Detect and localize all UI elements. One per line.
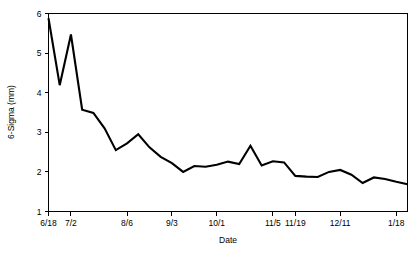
- y-tick-label: 5: [37, 48, 42, 58]
- data-series-line: [49, 18, 408, 184]
- y-axis-title: 6-Sigma (mm): [6, 85, 16, 139]
- y-axis-tick-labels: 123456: [37, 9, 42, 217]
- chart-canvas: 123456 6/187/28/69/310/111/511/1912/111/…: [0, 0, 417, 256]
- x-axis-title: Date: [219, 235, 237, 245]
- x-tick-label: 7/2: [65, 218, 77, 228]
- y-tick-label: 3: [37, 127, 42, 137]
- y-tick-label: 6: [37, 9, 42, 19]
- x-tick-label: 12/11: [330, 218, 351, 228]
- x-tick-label: 1/18: [388, 218, 405, 228]
- line-chart: 123456 6/187/28/69/310/111/511/1912/111/…: [0, 0, 417, 256]
- x-axis-ticks: [49, 212, 397, 216]
- x-tick-label: 11/5: [265, 218, 281, 228]
- y-axis-ticks: [45, 14, 49, 212]
- y-tick-label: 2: [37, 167, 42, 177]
- x-tick-label: 9/3: [166, 218, 178, 228]
- plot-frame: [49, 14, 408, 212]
- y-tick-label: 4: [37, 88, 42, 98]
- x-tick-label: 8/6: [121, 218, 133, 228]
- x-tick-label: 10/1: [209, 218, 226, 228]
- x-axis-tick-labels: 6/187/28/69/310/111/511/1912/111/18: [40, 218, 405, 228]
- axis-frame: [49, 14, 408, 212]
- x-tick-label: 11/19: [285, 218, 306, 228]
- x-tick-label: 6/18: [40, 218, 57, 228]
- y-tick-label: 1: [37, 207, 42, 217]
